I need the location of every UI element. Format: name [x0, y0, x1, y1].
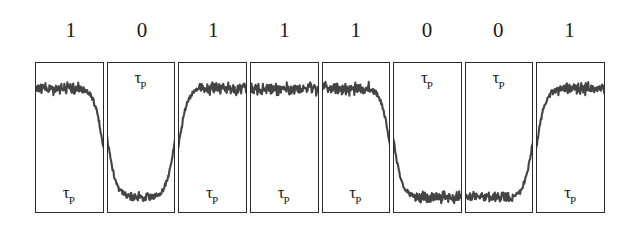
pulse-box-bit-7: τP — [536, 62, 605, 213]
bit-label-0: 1 — [65, 20, 76, 41]
bit-label-3: 1 — [279, 20, 290, 41]
bit-label-cell: 0 — [106, 12, 177, 48]
bit-label-cell: 1 — [249, 12, 320, 48]
pulse-box-bit-0: τP — [35, 62, 104, 213]
pulse-sequence-figure: 1 0 1 1 1 0 0 1 τPτPτPτPτPτPτPτP — [0, 0, 633, 228]
pulse-box-bit-3: τP — [250, 62, 319, 213]
pulse-waveform-bit-7 — [536, 63, 605, 212]
pulse-box-bit-5: τP — [393, 62, 462, 213]
bit-label-cell: 1 — [534, 12, 605, 48]
bit-label-cell: 1 — [320, 12, 391, 48]
pulse-waveform-bit-4 — [322, 63, 391, 212]
bit-label-7: 1 — [564, 20, 575, 41]
pulse-box-bit-6: τP — [465, 62, 534, 213]
pulse-waveform-bit-0 — [35, 63, 104, 212]
bit-label-cell: 0 — [463, 12, 534, 48]
pulse-waveform-bit-1 — [107, 63, 176, 212]
bit-label-6: 0 — [493, 20, 504, 41]
bit-label-cell: 1 — [178, 12, 249, 48]
pulse-box-row: τPτPτPτPτPτPτPτP — [35, 62, 605, 213]
pulse-waveform-bit-6 — [465, 63, 534, 212]
pulse-waveform-bit-2 — [178, 63, 247, 212]
bit-label-4: 1 — [350, 20, 361, 41]
pulse-waveform-bit-5 — [393, 63, 462, 212]
bit-label-2: 1 — [208, 20, 219, 41]
pulse-box-bit-2: τP — [178, 62, 247, 213]
pulse-box-bit-1: τP — [107, 62, 176, 213]
pulse-box-bit-4: τP — [322, 62, 391, 213]
bit-label-5: 0 — [422, 20, 433, 41]
bit-label-cell: 0 — [391, 12, 462, 48]
bit-label-1: 0 — [137, 20, 148, 41]
bit-label-cell: 1 — [35, 12, 106, 48]
pulse-waveform-bit-3 — [250, 63, 319, 212]
bit-label-row: 1 0 1 1 1 0 0 1 — [35, 12, 605, 48]
